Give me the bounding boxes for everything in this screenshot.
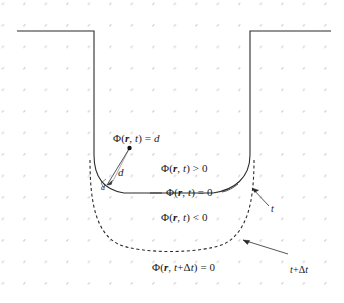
label-phi-negative-prefix: Φ( [161, 211, 173, 223]
label-distance-minor: d [101, 184, 105, 192]
sample-point-marker [127, 146, 131, 150]
label-phi-next-zero: Φ(r, t+Δt) = 0 [152, 262, 215, 273]
label-phi-positive-suffix: ) > 0 [186, 162, 207, 174]
level-set-figure: Φ(r, t) = d Φ(r, t) > 0 Φ(r, t) = 0 Φ(r,… [0, 0, 344, 303]
label-phi-positive: Φ(r, t) > 0 [161, 163, 208, 174]
leader-arrow-t-plus-dt [243, 240, 250, 244]
leader-line-t-plus-dt [243, 240, 288, 254]
label-phi-equals-d: Φ(r, t) = d [113, 133, 160, 144]
label-phi-equals-d-suffix: ) = [138, 132, 154, 144]
label-phi-equals-d-value: d [154, 132, 160, 144]
label-phi-next-zero-suffix: ) = 0 [194, 261, 215, 273]
label-time-t-value: t [271, 203, 274, 214]
label-distance-major: d [118, 167, 124, 178]
label-phi-negative-suffix: ) < 0 [186, 211, 207, 223]
label-phi-negative: Φ(r, t) < 0 [161, 212, 208, 223]
label-phi-equals-d-prefix: Φ( [113, 132, 125, 144]
label-phi-zero-prefix: Φ( [166, 186, 178, 198]
curves-layer [0, 0, 344, 303]
label-time-t-plus-dt-plus: +Δ [293, 264, 305, 275]
label-time-t: t [271, 204, 274, 214]
label-phi-zero-suffix: ) = 0 [191, 186, 212, 198]
label-phi-zero: Φ(r, t) = 0 [166, 187, 213, 198]
label-phi-next-zero-plus: +Δ [177, 261, 190, 273]
label-phi-next-zero-prefix: Φ( [152, 261, 164, 273]
label-time-t-plus-dt-time2: t [305, 264, 308, 275]
label-phi-positive-prefix: Φ( [161, 162, 173, 174]
label-time-t-plus-dt: t+Δt [290, 265, 308, 275]
